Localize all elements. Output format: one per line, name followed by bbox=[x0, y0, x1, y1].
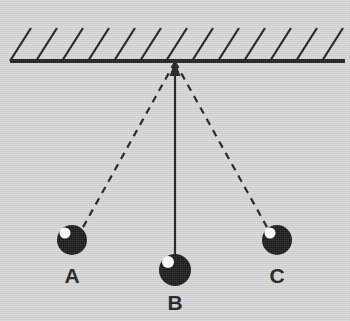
hatch-line bbox=[62, 28, 83, 61]
up-arrow-icon bbox=[170, 61, 181, 76]
bob-a-highlight bbox=[60, 228, 71, 239]
pendulum-figure: A B C bbox=[0, 0, 350, 321]
hatch-line bbox=[270, 28, 291, 61]
bob-b-label: B bbox=[167, 291, 182, 314]
hatch-line bbox=[166, 28, 187, 61]
pendulum-diagram: A B C bbox=[0, 0, 350, 321]
hatch-line bbox=[10, 28, 31, 61]
hatch-line bbox=[218, 28, 239, 61]
bob-b-highlight bbox=[162, 256, 174, 268]
hatch-line bbox=[140, 28, 161, 61]
pendulum-string-a bbox=[82, 62, 175, 229]
pendulum-string-c bbox=[175, 62, 268, 229]
hatch-line bbox=[114, 28, 135, 61]
pendulum-bob-a bbox=[57, 225, 87, 255]
hatch-line bbox=[244, 28, 265, 61]
hatch-line bbox=[88, 28, 109, 61]
bob-a-label: A bbox=[64, 264, 79, 287]
hatch-line bbox=[322, 28, 343, 61]
pendulum-bob-c bbox=[262, 225, 292, 255]
ceiling-hatching bbox=[10, 28, 343, 61]
hatch-line bbox=[296, 28, 317, 61]
bob-c-label: C bbox=[269, 264, 284, 287]
hatch-line bbox=[192, 28, 213, 61]
pendulum-bob-b bbox=[159, 254, 191, 286]
hatch-line bbox=[36, 28, 57, 61]
bob-c-highlight bbox=[265, 228, 276, 239]
